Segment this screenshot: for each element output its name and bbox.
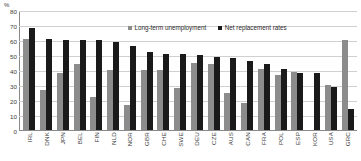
y-axis-tick: 40 — [10, 68, 17, 75]
x-axis-label: FIN — [93, 132, 100, 143]
x-axis-label-cell: POL — [272, 132, 289, 161]
bar-group — [38, 11, 55, 130]
bar-nr — [197, 55, 203, 130]
x-axis-label-cell: USA — [323, 132, 340, 161]
y-axis-tick: 70 — [10, 23, 17, 30]
x-axis-label-cell: GBR — [138, 132, 155, 161]
x-axis-label: BEL — [76, 132, 83, 144]
x-axis-label-cell: NLD — [105, 132, 122, 161]
x-axis-label-cell: IRL — [21, 132, 38, 161]
x-axis-label-cell: KOR — [306, 132, 323, 161]
legend-swatch-icon — [218, 26, 222, 30]
bar-nr — [46, 39, 52, 131]
x-axis-label: DEU — [193, 132, 200, 146]
x-axis-label-cell: AUS — [222, 132, 239, 161]
x-axis-label: DNK — [43, 132, 50, 146]
y-axis-tick: 60 — [10, 38, 17, 45]
bar-nr — [163, 54, 169, 131]
bar-nr — [230, 58, 236, 130]
bar-group — [88, 11, 105, 130]
x-axis-label: SWE — [177, 132, 184, 147]
x-axis-label: CZE — [210, 132, 217, 145]
x-axis-label-cell: FIN — [88, 132, 105, 161]
x-axis-label-cell: SWE — [172, 132, 189, 161]
legend-label: Long-term unemployment — [135, 24, 207, 31]
x-axis-label-cell: GRC — [339, 132, 356, 161]
y-axis-tick: 30 — [10, 83, 17, 90]
x-axis-category-labels: IRLDNKJPNBELFINNLDNORGBRCHESWEDEUCZEAUSC… — [19, 132, 357, 161]
bar-nr — [297, 73, 303, 130]
bar-group — [339, 11, 356, 130]
x-axis-label: FRA — [260, 132, 267, 145]
legend-swatch-icon — [128, 26, 132, 30]
bar-group — [323, 11, 340, 130]
x-axis-label: KOR — [311, 132, 318, 146]
bar-group — [289, 11, 306, 130]
x-axis-label: JPN — [59, 132, 66, 144]
x-axis-label-cell: CZE — [205, 132, 222, 161]
y-axis-tick-labels: 01020304050607080 — [0, 0, 18, 161]
x-axis-label: CHE — [160, 132, 167, 146]
chart-container: % 01020304050607080 Long-term unemployme… — [0, 0, 361, 161]
x-axis-label-cell: BEL — [71, 132, 88, 161]
bar-group — [71, 11, 88, 130]
bar-nr — [281, 69, 287, 131]
legend-item: Long-term unemployment — [128, 24, 206, 31]
x-axis-label-cell: ESP — [289, 132, 306, 161]
bar-nr — [331, 87, 337, 131]
x-axis-label: GBR — [143, 132, 150, 146]
x-axis-label: NOR — [126, 132, 133, 146]
x-axis-label: USA — [327, 132, 334, 145]
bar-nr — [147, 52, 153, 130]
legend-label: Net replacement rates — [225, 24, 287, 31]
bar-group — [55, 11, 72, 130]
bar-group — [105, 11, 122, 130]
x-axis-label-cell: CAN — [239, 132, 256, 161]
y-axis-tick: 10 — [10, 113, 17, 120]
x-axis-label-cell: CHE — [155, 132, 172, 161]
x-axis-label: ESP — [294, 132, 301, 145]
bar-nr — [264, 64, 270, 130]
bar-nr — [113, 42, 119, 131]
bar-nr — [130, 46, 136, 130]
y-axis-tick: 0 — [14, 128, 17, 135]
x-axis-label-cell: JPN — [55, 132, 72, 161]
legend-item: Net replacement rates — [218, 24, 286, 31]
x-axis-label-cell: NOR — [122, 132, 139, 161]
x-axis-label: IRL — [26, 132, 33, 142]
y-axis-tick: 20 — [10, 98, 17, 105]
y-axis-tick: 80 — [10, 8, 17, 15]
x-axis-label: POL — [277, 132, 284, 145]
bar-nr — [314, 73, 320, 130]
bar-nr — [348, 109, 354, 130]
x-axis-label: GRC — [344, 132, 351, 146]
bar-nr — [214, 57, 220, 131]
bar-nr — [247, 61, 253, 130]
bar-nr — [29, 28, 35, 130]
bar-group — [306, 11, 323, 130]
bar-nr — [80, 40, 86, 130]
x-axis-label-cell: DEU — [189, 132, 206, 161]
x-axis-line — [19, 130, 357, 131]
x-axis-label: CAN — [244, 132, 251, 146]
bar-nr — [180, 54, 186, 131]
bar-group — [21, 11, 38, 130]
x-axis-label-cell: FRA — [256, 132, 273, 161]
bar-nr — [63, 40, 69, 130]
x-axis-label: NLD — [110, 132, 117, 145]
chart-legend: Long-term unemploymentNet replacement ra… — [128, 24, 287, 31]
y-axis-tick: 50 — [10, 53, 17, 60]
bar-nr — [96, 40, 102, 130]
x-axis-label-cell: DNK — [38, 132, 55, 161]
x-axis-label: AUS — [227, 132, 234, 145]
